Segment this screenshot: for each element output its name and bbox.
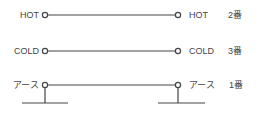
earth-pin-label: 1番 bbox=[229, 80, 243, 90]
earth-right-terminal-icon bbox=[175, 82, 180, 87]
cold-left-terminal-icon bbox=[42, 48, 47, 53]
cold-right-terminal-icon bbox=[175, 48, 180, 53]
hot-left-terminal-icon bbox=[42, 12, 47, 17]
hot-right-label: HOT bbox=[189, 10, 208, 20]
earth-left-label: アース bbox=[13, 80, 39, 90]
hot-pin-label: 2番 bbox=[228, 10, 242, 20]
hot-left-label: HOT bbox=[20, 10, 39, 20]
wiring-diagram bbox=[0, 0, 261, 125]
cold-pin-label: 3番 bbox=[228, 46, 242, 56]
earth-left-terminal-icon bbox=[42, 82, 47, 87]
earth-right-label: アース bbox=[189, 80, 215, 90]
cold-left-label: COLD bbox=[14, 46, 39, 56]
hot-right-terminal-icon bbox=[175, 12, 180, 17]
cold-right-label: COLD bbox=[189, 46, 214, 56]
